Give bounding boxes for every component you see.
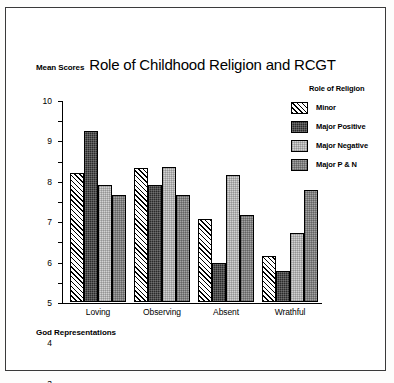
bar-absent-minor — [198, 219, 212, 302]
legend-label-major-negative: Major Negative — [316, 141, 368, 150]
y-tick-label: 5 — [47, 299, 52, 308]
bar-group-absent: Absent — [198, 100, 254, 302]
bar-loving-major-positive — [84, 131, 98, 302]
bar-absent-major-positive — [212, 263, 226, 302]
legend-title: Role of Religion — [309, 84, 394, 93]
y-tick-mark: 3 — [58, 242, 62, 243]
bar-observing-major-p-and-n — [176, 195, 190, 302]
legend-label-major-positive: Major Positive — [316, 122, 365, 131]
plot-area: 012345678910 LovingObservingAbsentWrathf… — [62, 101, 322, 303]
y-tick-mark: 6 — [58, 182, 62, 183]
x-axis-title: God Representations — [36, 328, 116, 337]
y-tick-label: 8 — [47, 178, 52, 187]
bar-observing-major-positive — [148, 185, 162, 302]
y-tick-mark: 8 — [58, 141, 62, 142]
legend-label-major-p-and-n: Major P & N — [316, 160, 357, 169]
y-tick-mark: 10 — [58, 101, 62, 102]
y-tick-mark: 7 — [58, 162, 62, 163]
bar-absent-major-p-and-n — [240, 215, 254, 302]
y-tick-mark: 0 — [58, 303, 62, 304]
y-tick-label: 4 — [47, 339, 52, 348]
bar-loving-minor — [70, 173, 84, 302]
figure-frame: Mean ScoresRole of Childhood Religion an… — [5, 7, 386, 371]
bar-group-observing: Observing — [134, 100, 190, 302]
y-tick-mark: 2 — [58, 263, 62, 264]
chart-header: Mean ScoresRole of Childhood Religion an… — [36, 56, 336, 74]
bar-group-loving: Loving — [70, 100, 126, 302]
y-axis-title: Mean Scores — [36, 63, 84, 72]
bar-loving-major-negative — [98, 185, 112, 302]
x-tick-label-absent: Absent — [198, 307, 254, 317]
y-tick-label: 9 — [47, 137, 52, 146]
bar-wrathful-major-p-and-n — [304, 190, 318, 302]
bar-observing-major-negative — [162, 167, 176, 302]
bar-loving-major-p-and-n — [112, 195, 126, 302]
bar-wrathful-major-negative — [290, 233, 304, 302]
x-axis-line — [62, 303, 322, 304]
bar-wrathful-minor — [262, 256, 276, 302]
bar-wrathful-major-positive — [276, 271, 290, 302]
y-tick-label: 10 — [43, 97, 52, 106]
y-tick-mark: 1 — [58, 283, 62, 284]
y-tick-mark: 5 — [58, 202, 62, 203]
x-tick-label-wrathful: Wrathful — [262, 307, 318, 317]
chart-title: Role of Childhood Religion and RCGT — [89, 56, 335, 73]
y-tick-mark: 4 — [58, 222, 62, 223]
y-tick-label: 7 — [47, 218, 52, 227]
bar-group-wrathful: Wrathful — [262, 100, 318, 302]
scanned-page: Mean ScoresRole of Childhood Religion an… — [0, 0, 394, 383]
bar-observing-minor — [134, 168, 148, 302]
y-tick-mark: 9 — [58, 121, 62, 122]
bar-absent-major-negative — [226, 175, 240, 302]
cropped-page-caption — [30, 375, 370, 383]
y-axis-line — [62, 101, 63, 304]
y-tick-label: 6 — [47, 258, 52, 267]
x-tick-label-observing: Observing — [134, 307, 190, 317]
x-tick-label-loving: Loving — [70, 307, 126, 317]
